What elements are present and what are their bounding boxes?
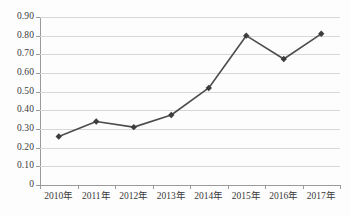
x-axis-tick-label: 2012年 [119, 192, 148, 202]
x-axis-tick-label: 2017年 [307, 192, 336, 202]
x-axis-tick [228, 185, 229, 189]
gridline [40, 17, 340, 18]
gridline [40, 166, 340, 167]
gridline [40, 92, 340, 93]
x-axis-tick-label: 2011年 [82, 192, 111, 202]
gridline [40, 54, 340, 55]
y-axis-tick [36, 36, 40, 37]
x-axis-tick-label: 2015年 [232, 192, 261, 202]
gridline [40, 129, 340, 130]
x-axis-tick [40, 185, 41, 189]
y-axis-tick-label: 0.90 [0, 12, 34, 22]
x-axis-tick-label: 2014年 [194, 192, 223, 202]
y-axis-tick [36, 148, 40, 149]
y-axis-tick-label: 0.30 [0, 124, 34, 134]
y-axis-tick [36, 73, 40, 74]
y-axis-tick-label: 0.20 [0, 143, 34, 153]
y-axis-tick [36, 17, 40, 18]
y-axis-tick [36, 166, 40, 167]
x-axis-tick [190, 185, 191, 189]
x-axis-tick [340, 185, 341, 189]
y-axis-tick-label: 0.10 [0, 161, 34, 171]
x-axis-tick [303, 185, 304, 189]
x-axis-tick-label: 2016年 [269, 192, 298, 202]
y-axis-tick-label: 0.40 [0, 105, 34, 115]
x-axis-tick [115, 185, 116, 189]
x-axis-tick [78, 185, 79, 189]
y-axis-tick-label: 0.70 [0, 49, 34, 59]
y-axis-tick [36, 110, 40, 111]
gridline [40, 36, 340, 37]
gridline [40, 110, 340, 111]
chart-screenshot: 0.900.800.700.600.500.400.300.200.100 20… [0, 0, 351, 216]
x-axis-tick-label: 2013年 [157, 192, 186, 202]
y-axis-tick [36, 54, 40, 55]
y-axis-tick [36, 92, 40, 93]
gridline [40, 148, 340, 149]
gridline [40, 73, 340, 74]
y-axis-tick-label: 0 [0, 180, 34, 190]
y-axis-tick [36, 129, 40, 130]
plot-area [40, 17, 340, 185]
x-axis-tick [153, 185, 154, 189]
y-axis-tick-label: 0.60 [0, 68, 34, 78]
x-axis-tick [265, 185, 266, 189]
y-axis-tick-label: 0.50 [0, 87, 34, 97]
x-axis-tick-label: 2010年 [44, 192, 73, 202]
y-axis-tick-label: 0.80 [0, 31, 34, 41]
y-axis-labels: 0.900.800.700.600.500.400.300.200.100 [0, 0, 34, 216]
